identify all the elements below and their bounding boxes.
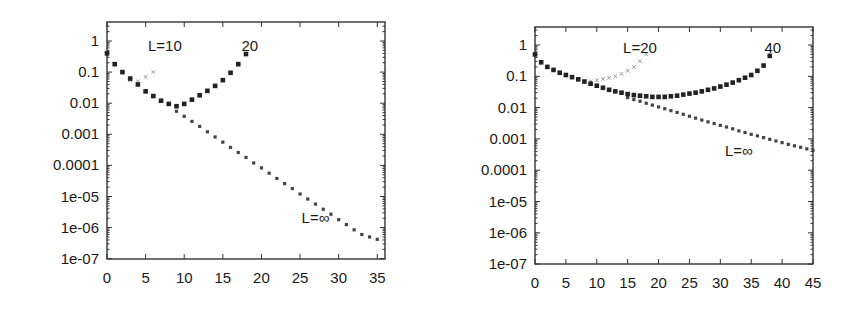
y-tick-label: 0.1: [78, 63, 99, 80]
data-point: [607, 76, 611, 80]
data-point: [275, 177, 278, 180]
data-point: [159, 98, 164, 103]
series-l-20: [589, 53, 648, 83]
series-l-: [626, 96, 815, 152]
data-point: [601, 77, 605, 81]
y-tick-label: 0.01: [70, 94, 99, 111]
data-point: [190, 120, 193, 123]
data-point: [594, 83, 599, 88]
data-point: [730, 80, 735, 85]
data-point: [337, 218, 340, 221]
data-point: [588, 81, 593, 86]
data-point: [607, 88, 612, 93]
data-point: [755, 68, 760, 73]
data-point: [244, 156, 247, 159]
data-point: [787, 143, 790, 146]
y-tick-label: 1e-05: [489, 193, 527, 210]
x-tick-label: 45: [805, 274, 822, 291]
plot-frame: [107, 22, 385, 259]
data-point: [213, 84, 218, 89]
y-tick-label: 0.001: [61, 125, 99, 142]
data-point: [368, 235, 371, 238]
data-point: [205, 89, 210, 94]
data-point: [345, 223, 348, 226]
data-point: [713, 122, 716, 125]
data-point: [645, 102, 648, 105]
data-point: [663, 107, 666, 110]
data-point: [228, 70, 233, 75]
data-point: [719, 124, 722, 127]
data-point: [539, 60, 544, 65]
data-point: [651, 104, 654, 107]
curve-label: L=10: [148, 37, 182, 54]
x-tick-label: 5: [141, 269, 149, 286]
data-point: [750, 133, 753, 136]
data-point: [206, 130, 209, 133]
data-point: [576, 77, 581, 82]
data-point: [688, 115, 691, 118]
data-point: [182, 102, 187, 107]
chart-left-correlation-plot: 10.10.010.0010.00011e-051e-061e-07051015…: [0, 0, 427, 318]
data-point: [700, 89, 705, 94]
y-tick-label: 1e-07: [489, 255, 527, 272]
chart-right-canvas: 10.10.010.0010.00011e-051e-061e-07051015…: [427, 0, 854, 318]
data-point: [557, 70, 562, 75]
data-point: [632, 65, 636, 69]
x-tick-label: 35: [743, 274, 760, 291]
plot-frame: [535, 27, 813, 264]
y-tick-label: 1e-07: [61, 250, 99, 267]
data-point: [260, 166, 263, 169]
curve-label: L=∞: [725, 142, 753, 159]
y-tick-label: 1: [519, 36, 527, 53]
data-point: [681, 92, 686, 97]
curve-label: 20: [242, 37, 259, 54]
data-point: [725, 125, 728, 128]
y-tick-label: 0.0001: [481, 161, 527, 178]
data-point: [620, 72, 624, 76]
data-point: [731, 127, 734, 130]
data-point: [564, 73, 569, 78]
data-point: [214, 135, 217, 138]
y-tick-label: 0.1: [506, 67, 527, 84]
x-tick-label: 20: [650, 274, 667, 291]
data-point: [669, 109, 672, 112]
curve-label: 40: [765, 39, 782, 56]
data-point: [353, 228, 356, 231]
x-tick-label: 35: [369, 269, 386, 286]
data-point: [360, 233, 363, 236]
data-point: [638, 60, 642, 64]
data-point: [718, 84, 723, 89]
data-point: [314, 202, 317, 205]
data-point: [237, 151, 240, 154]
data-point: [706, 120, 709, 123]
data-point: [236, 62, 241, 67]
y-tick-label: 1e-06: [489, 224, 527, 241]
data-point: [143, 89, 148, 94]
x-tick-label: 10: [176, 269, 193, 286]
y-tick-label: 0.0001: [53, 156, 99, 173]
data-point: [743, 75, 748, 80]
data-point: [650, 95, 655, 100]
data-point: [632, 98, 635, 101]
data-point: [675, 93, 680, 98]
x-tick-label: 0: [103, 269, 111, 286]
curve-label: L=∞: [302, 209, 330, 226]
data-point: [632, 93, 637, 98]
data-point: [551, 68, 556, 73]
data-point: [626, 96, 629, 99]
data-point: [190, 97, 195, 102]
data-point: [112, 62, 117, 67]
data-point: [781, 141, 784, 144]
data-point: [183, 115, 186, 118]
x-tick-label: 20: [253, 269, 270, 286]
data-point: [376, 238, 379, 241]
data-point: [793, 144, 796, 147]
chart-left-canvas: 10.10.010.0010.00011e-051e-061e-07051015…: [0, 0, 427, 318]
data-point: [175, 110, 178, 113]
x-tick-label: 30: [330, 269, 347, 286]
data-point: [283, 182, 286, 185]
data-point: [136, 82, 141, 87]
data-point: [601, 85, 606, 90]
y-tick-label: 1: [91, 32, 99, 49]
data-point: [298, 192, 301, 195]
